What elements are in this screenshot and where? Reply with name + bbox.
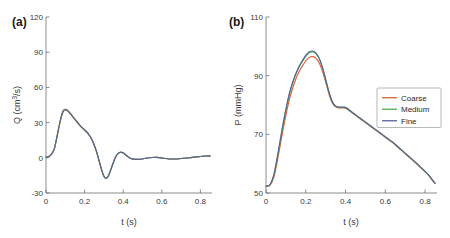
panel-a-tag: (a): [12, 15, 27, 29]
x-tick-label: 0.6: [156, 197, 168, 206]
panel-a-curves: [46, 109, 210, 178]
x-tick-label: 0: [264, 197, 269, 206]
y-tick-label: 110: [250, 13, 263, 22]
y-tick-label: 120: [30, 13, 44, 22]
legend-label-medium: Medium: [401, 105, 430, 114]
y-tick-label: 90: [34, 48, 43, 57]
panel-b: (b) 00.20.40.60.8507090110 CoarseMediumF…: [225, 0, 450, 238]
panel-a-y-title-tail: /s): [12, 86, 22, 96]
panel-b-tag: (b): [229, 15, 244, 29]
y-tick-label: 90: [254, 72, 263, 81]
x-tick-label: 0.2: [300, 197, 312, 206]
x-tick-label: 0: [44, 197, 49, 206]
series-coarse: [46, 110, 210, 178]
y-tick-label: 50: [254, 189, 263, 198]
panel-a-svg: (a) 00.20.40.60.8-300306090120 t (s) Q (…: [0, 0, 225, 238]
panel-b-y-title-text: P (mmHg): [233, 85, 243, 126]
panel-b-y-title: P (mmHg): [233, 85, 243, 126]
x-tick-label: 0.8: [420, 197, 432, 206]
legend-label-coarse: Coarse: [401, 94, 427, 103]
legend[interactable]: CoarseMediumFine: [377, 88, 441, 128]
panel-a-ticks: 00.20.40.60.8-300306090120: [30, 13, 207, 206]
y-tick-label: 60: [34, 83, 43, 92]
y-tick-label: 0: [39, 154, 44, 163]
x-tick-label: 0.6: [380, 197, 392, 206]
panel-a-y-title: Q (cm3/s): [11, 86, 22, 124]
panel-a-x-title: t (s): [121, 217, 137, 227]
series-medium: [46, 110, 210, 178]
y-tick-label: -30: [31, 189, 43, 198]
x-tick-label: 0.2: [79, 197, 91, 206]
x-tick-label: 0.4: [340, 197, 352, 206]
panel-a-y-title-main: Q (cm: [12, 100, 22, 125]
panel-b-x-title: t (s): [343, 217, 359, 227]
panel-b-svg: (b) 00.20.40.60.8507090110 CoarseMediumF…: [225, 0, 450, 238]
series-fine: [46, 109, 210, 178]
y-tick-label: 70: [254, 130, 263, 139]
panel-a: (a) 00.20.40.60.8-300306090120 t (s) Q (…: [0, 0, 225, 238]
x-tick-label: 0.4: [118, 197, 130, 206]
x-tick-label: 0.8: [195, 197, 207, 206]
figure-container: (a) 00.20.40.60.8-300306090120 t (s) Q (…: [0, 0, 450, 238]
y-tick-label: 30: [34, 119, 43, 128]
legend-label-fine: Fine: [401, 117, 417, 126]
panel-a-axes: [46, 17, 212, 193]
svg-text:Q (cm3/s): Q (cm3/s): [11, 86, 22, 124]
